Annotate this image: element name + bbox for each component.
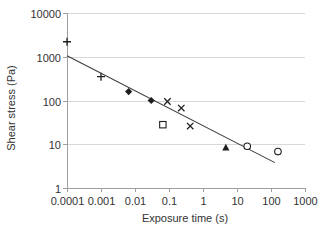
scatter-plot-canvas: 1101001000100000.00010.0010.010.11101001… bbox=[0, 0, 320, 231]
cross-marker bbox=[187, 123, 193, 129]
x-tick-label: 1 bbox=[200, 195, 206, 207]
x-tick-label: 0.1 bbox=[162, 195, 177, 207]
chart-figure: 1101001000100000.00010.0010.010.11101001… bbox=[0, 0, 320, 231]
x-tick-label: 0.0001 bbox=[51, 195, 85, 207]
open-circle-marker bbox=[244, 143, 251, 150]
y-tick-label: 10000 bbox=[30, 8, 61, 20]
x-tick-label: 0.001 bbox=[88, 195, 116, 207]
y-tick-label: 1 bbox=[55, 183, 61, 195]
y-tick-label: 1000 bbox=[37, 52, 61, 64]
x-tick-label: 10 bbox=[231, 195, 243, 207]
y-axis-title: Shear stress (Pa) bbox=[5, 8, 17, 208]
open-square-marker bbox=[160, 121, 166, 127]
y-tick-label: 10 bbox=[49, 139, 61, 151]
x-tick-label: 1000 bbox=[293, 195, 317, 207]
y-tick-label: 100 bbox=[43, 96, 61, 108]
plus-marker bbox=[63, 38, 71, 46]
open-circle-marker bbox=[275, 148, 282, 155]
x-axis-title: Exposure time (s) bbox=[67, 212, 303, 224]
plus-marker bbox=[97, 73, 105, 81]
x-tick-label: 0.01 bbox=[125, 195, 146, 207]
x-tick-label: 100 bbox=[262, 195, 280, 207]
cross-marker bbox=[178, 105, 184, 111]
